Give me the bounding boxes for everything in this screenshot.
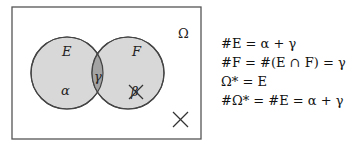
set-f-label: F xyxy=(131,44,142,59)
equation-2: #F = #(E ∩ F) = γ xyxy=(221,53,346,72)
universe-label: Ω xyxy=(178,26,189,41)
equation-3: Ω* = E xyxy=(221,72,346,91)
equation-4: #Ω* = #E = α + γ xyxy=(221,91,346,110)
gamma-label: γ xyxy=(94,69,102,84)
venn-diagram: Ω E F α γ β xyxy=(0,0,215,146)
set-e-label: E xyxy=(61,44,72,59)
alpha-label: α xyxy=(61,83,70,98)
equation-1: #E = α + γ xyxy=(221,34,346,53)
equations-block: #E = α + γ #F = #(E ∩ F) = γ Ω* = E #Ω* … xyxy=(221,34,346,110)
